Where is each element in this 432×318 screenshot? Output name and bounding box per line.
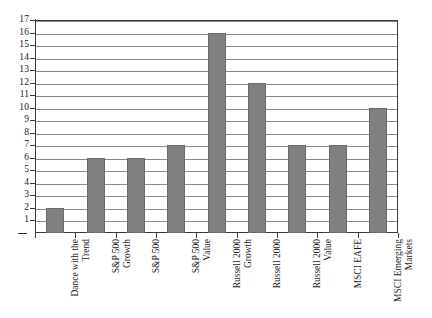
x-axis-tick-label: S&P 500 — [151, 239, 191, 318]
y-axis-tick-label: 5 — [3, 165, 29, 175]
x-axis-tick-label: MSCI EmergingMarkets — [393, 239, 432, 318]
x-axis-labels: Dance with theTrendS&P 500GrowthS&P 500S… — [35, 239, 398, 318]
x-axis-tick-label: Russell 2000Value — [312, 239, 352, 318]
x-axis-tick — [398, 233, 399, 238]
x-axis-label-line: S&P 500 — [191, 239, 202, 318]
y-axis-tick-label: 11 — [3, 90, 29, 100]
x-axis-label-line: Russell 2000 — [312, 239, 323, 318]
bar — [46, 208, 64, 233]
x-axis-label-line: S&P 500 — [151, 239, 162, 318]
bar — [329, 145, 347, 233]
y-axis-tick-label: 3 — [3, 190, 29, 200]
x-axis-label-line: Value — [202, 239, 213, 318]
y-axis-tick-label: 6 — [3, 153, 29, 163]
x-axis-tick — [156, 233, 157, 238]
bar — [127, 158, 145, 233]
bar — [167, 145, 185, 233]
x-axis-tick-label: Russell 2000 — [272, 239, 312, 318]
x-axis-tick — [237, 233, 238, 238]
y-axis-tick-label: 4 — [3, 178, 29, 188]
bar-chart: 1716151413121110987654321 Dance with the… — [0, 0, 432, 318]
y-axis-tick-label: 16 — [3, 28, 29, 38]
x-axis-label-line: Growth — [121, 239, 132, 318]
x-axis-tick — [196, 233, 197, 238]
y-axis-tick-label: 12 — [3, 78, 29, 88]
x-axis-label-line: Markets — [403, 239, 414, 318]
x-axis-tick-label: MSCI EAFE — [353, 239, 393, 318]
y-axis-baseline-marker — [18, 233, 27, 234]
bars-layer — [35, 20, 398, 233]
x-axis-tick-label: Russell 2000Growth — [232, 239, 272, 318]
x-axis-label-line: Value — [323, 239, 334, 318]
x-axis-label-line: Growth — [242, 239, 253, 318]
y-axis-tick-label: 2 — [3, 203, 29, 213]
x-axis-tick-label: S&P 500Value — [191, 239, 231, 318]
bar — [288, 145, 306, 233]
x-axis-label-line: MSCI Emerging — [393, 239, 404, 318]
x-axis-label-line: S&P 500 — [111, 239, 122, 318]
bar — [369, 108, 387, 233]
x-axis-tick — [358, 233, 359, 238]
y-axis-tick-label: 15 — [3, 40, 29, 50]
y-axis-tick-label: 8 — [3, 128, 29, 138]
x-axis-tick — [35, 233, 36, 238]
x-axis-tick — [116, 233, 117, 238]
x-axis-label-line: Russell 2000 — [232, 239, 243, 318]
x-axis-tick — [317, 233, 318, 238]
bar — [248, 83, 266, 233]
y-axis-tick-label: 17 — [3, 15, 29, 25]
x-axis-label-line: Trend — [81, 239, 92, 318]
bar — [208, 33, 226, 233]
y-axis-tick-label: 14 — [3, 53, 29, 63]
x-axis-label-line: Dance with the — [70, 239, 81, 318]
x-axis-tick-label: Dance with theTrend — [70, 239, 110, 318]
y-axis-tick-label: 13 — [3, 65, 29, 75]
x-axis-tick-label: S&P 500Growth — [111, 239, 151, 318]
x-axis-label-line: MSCI EAFE — [353, 239, 364, 318]
y-axis-tick-label: 1 — [3, 215, 29, 225]
x-axis-tick — [75, 233, 76, 238]
x-axis-tick — [277, 233, 278, 238]
y-axis-tick-label: 9 — [3, 115, 29, 125]
y-axis-tick-label: 10 — [3, 103, 29, 113]
x-axis-label-line: Russell 2000 — [272, 239, 283, 318]
bar — [87, 158, 105, 233]
y-axis-tick-label: 7 — [3, 140, 29, 150]
